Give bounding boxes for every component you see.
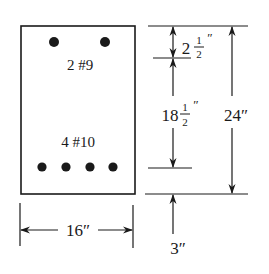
svg-text:18: 18 xyxy=(162,106,179,125)
svg-text:1: 1 xyxy=(196,34,202,46)
bottom-cover-label: 3″ xyxy=(170,239,186,258)
svg-text:2: 2 xyxy=(196,48,202,60)
bottom-bars xyxy=(37,162,117,171)
top-reinforcement-label: 2 #9 xyxy=(67,57,93,73)
rebar-top-1 xyxy=(49,37,59,47)
rebar-bottom-4 xyxy=(108,162,117,171)
beam-section-diagram: 2 #9 4 #10 2 1 2 ″ 18 1 2 ″ xyxy=(0,0,269,274)
width-label: 16″ xyxy=(66,221,90,240)
bottom-reinforcement-label: 4 #10 xyxy=(61,134,95,150)
svg-text:″: ″ xyxy=(207,30,212,45)
rebar-top-2 xyxy=(100,37,110,47)
rebar-bottom-2 xyxy=(61,162,70,171)
svg-text:″: ″ xyxy=(193,97,198,112)
svg-text:2: 2 xyxy=(182,39,191,58)
top-cover-label: 2 1 2 ″ xyxy=(182,30,213,60)
svg-text:1: 1 xyxy=(182,101,188,113)
total-height-label: 24″ xyxy=(224,106,248,125)
rebar-bottom-1 xyxy=(37,162,46,171)
effective-depth-label: 18 1 2 ″ xyxy=(162,97,199,128)
top-bars xyxy=(49,37,110,47)
rebar-bottom-3 xyxy=(85,162,94,171)
svg-text:2: 2 xyxy=(182,116,188,128)
